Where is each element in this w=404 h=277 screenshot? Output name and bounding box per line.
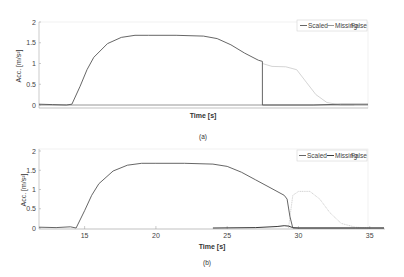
y-tick-label: 1.5 [26,39,36,46]
x-tick-label: 25 [223,232,231,239]
y-tick-label: 1 [32,186,36,193]
x-tick-label: 15 [81,232,89,239]
legend-label-false: False [351,152,367,159]
plot-area-a [39,22,368,108]
x-axis-label-b: Time [s] [199,243,226,251]
panel-caption-b: (b) [203,259,211,267]
y-tick-label: 0.5 [26,205,36,212]
y-tick-label: 2 [32,19,36,26]
x-tick-label: 20 [152,232,160,239]
panel-caption-a: (a) [199,133,207,141]
legend-label-scaled: Scaled [307,152,327,159]
y-tick-label: 0.5 [26,81,36,88]
y-tick-label: 1.5 [26,167,36,174]
legend-a: Scaled Missing False [297,20,367,31]
x-axis-label-a: Time [s] [190,112,217,120]
y-tick-label: 0 [32,225,36,232]
chart-panel-a: 00.511.52 Acc. [m/s²] Time [s] (a) Scale… [15,19,368,142]
x-tick-label: 35 [366,232,374,239]
chart-panel-b: 00.511.52 1520253035 Acc. [m/s²] Time [s… [20,148,385,268]
y-tick-label: 1 [32,60,36,67]
legend-b: Scaled Missing False [297,150,367,161]
figure: 00.511.52 Acc. [m/s²] Time [s] (a) Scale… [0,0,404,277]
y-axis-label-b: Acc. [m/s²] [20,173,28,206]
legend-label-scaled: Scaled [308,22,328,29]
x-tick-label: 30 [295,232,303,239]
legend-label-false: False [351,22,367,29]
y-tick-label: 0 [32,102,36,109]
y-tick-label: 2 [32,148,36,155]
y-axis-label-a: Acc. [m/s²] [15,49,23,82]
